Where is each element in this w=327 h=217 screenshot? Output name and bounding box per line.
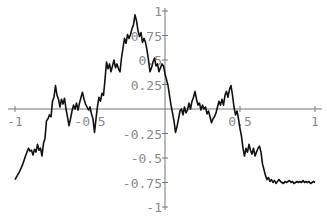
y-tick-label: -0.75	[123, 176, 162, 191]
x-tick-label: 1	[311, 114, 319, 129]
y-tick-label: 0.25	[131, 78, 162, 93]
y-tick-label: 1	[154, 4, 162, 19]
y-tick-label: -0.25	[123, 127, 162, 142]
y-tick-label: -1	[146, 200, 162, 215]
chart-canvas: -1-0.50.51 10.750.50.25-0.25-0.5-0.75-1	[0, 0, 327, 217]
y-tick-label: -0.5	[131, 151, 162, 166]
x-tick-label: -0.5	[74, 114, 105, 129]
y-tick-label: 0.75	[131, 29, 162, 44]
x-tick-label: -1	[7, 114, 23, 129]
